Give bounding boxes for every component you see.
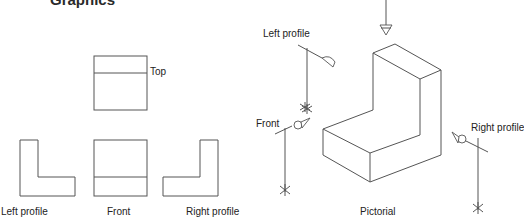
front-viewer-icon bbox=[275, 102, 310, 196]
top-viewer-arrow-icon bbox=[380, 0, 392, 35]
left-profile-viewer-icon bbox=[298, 45, 335, 114]
left-profile-view bbox=[20, 140, 75, 196]
top-view-label: Top bbox=[150, 66, 166, 77]
right-profile-view-label: Right profile bbox=[186, 206, 239, 217]
right-profile-view bbox=[163, 140, 218, 196]
pictorial-block bbox=[323, 44, 441, 182]
top-view bbox=[94, 56, 147, 110]
front-view-label: Front bbox=[107, 206, 130, 217]
pictorial-front-label: Front bbox=[256, 118, 279, 129]
pictorial-right-profile-label: Right profile bbox=[471, 122, 524, 133]
front-view bbox=[94, 140, 147, 196]
left-profile-view-label: Left profile bbox=[1, 206, 48, 217]
pictorial-caption: Pictorial bbox=[360, 206, 396, 217]
right-profile-viewer-icon bbox=[452, 132, 488, 214]
pictorial-left-profile-label: Left profile bbox=[263, 28, 310, 39]
